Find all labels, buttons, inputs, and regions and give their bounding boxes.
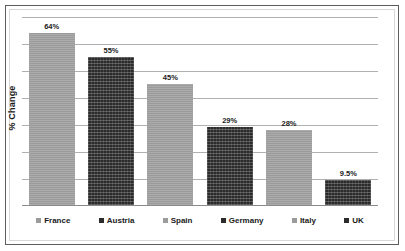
legend-item-uk[interactable]: UK (344, 216, 364, 225)
bar-value-label: 28% (281, 119, 296, 128)
legend-item-label: UK (352, 216, 364, 225)
bar-value-label: 29% (222, 116, 237, 125)
bar-chart-figure: % Change 64%55%45%29%28%9.5% FranceAustr… (0, 0, 405, 251)
plot-area: 64%55%45%29%28%9.5% (22, 17, 378, 206)
bar-slot: 9.5% (325, 17, 371, 205)
legend-item-label: Spain (171, 216, 193, 225)
bar-value-label: 9.5% (340, 169, 357, 178)
bar-slot: 64% (29, 17, 75, 205)
x-axis-line (22, 205, 378, 206)
bar-value-label: 45% (163, 73, 178, 82)
legend-item-italy[interactable]: Italy (292, 216, 316, 225)
legend-item-austria[interactable]: Austria (99, 216, 135, 225)
bar-slot: 55% (88, 17, 134, 205)
legend-item-germany[interactable]: Germany (221, 216, 264, 225)
y-axis-title-text: % Change (7, 85, 17, 130)
legend-item-label: Austria (107, 216, 135, 225)
bar-uk[interactable]: 9.5% (325, 180, 371, 206)
bar-slot: 29% (207, 17, 253, 205)
legend-item-france[interactable]: France (36, 216, 70, 225)
legend-swatch-icon (344, 218, 349, 223)
legend-swatch-icon (99, 218, 104, 223)
bar-austria[interactable]: 55% (88, 57, 134, 205)
legend-item-spain[interactable]: Spain (163, 216, 193, 225)
bar-spain[interactable]: 45% (147, 84, 193, 205)
legend-swatch-icon (221, 218, 226, 223)
bar-value-label: 55% (103, 46, 118, 55)
bar-slot: 28% (266, 17, 312, 205)
bar-italy[interactable]: 28% (266, 130, 312, 205)
bar-germany[interactable]: 29% (207, 127, 253, 205)
legend-swatch-icon (36, 218, 41, 223)
bar-series: 64%55%45%29%28%9.5% (22, 17, 378, 205)
legend-item-label: Italy (300, 216, 316, 225)
legend-swatch-icon (292, 218, 297, 223)
legend-item-label: Germany (229, 216, 264, 225)
bar-value-label: 64% (44, 22, 59, 31)
y-axis-title: % Change (5, 68, 19, 148)
legend-swatch-icon (163, 218, 168, 223)
chart-legend: FranceAustriaSpainGermanyItalyUK (22, 212, 378, 228)
bar-france[interactable]: 64% (29, 33, 75, 205)
bar-slot: 45% (147, 17, 193, 205)
legend-item-label: France (44, 216, 70, 225)
